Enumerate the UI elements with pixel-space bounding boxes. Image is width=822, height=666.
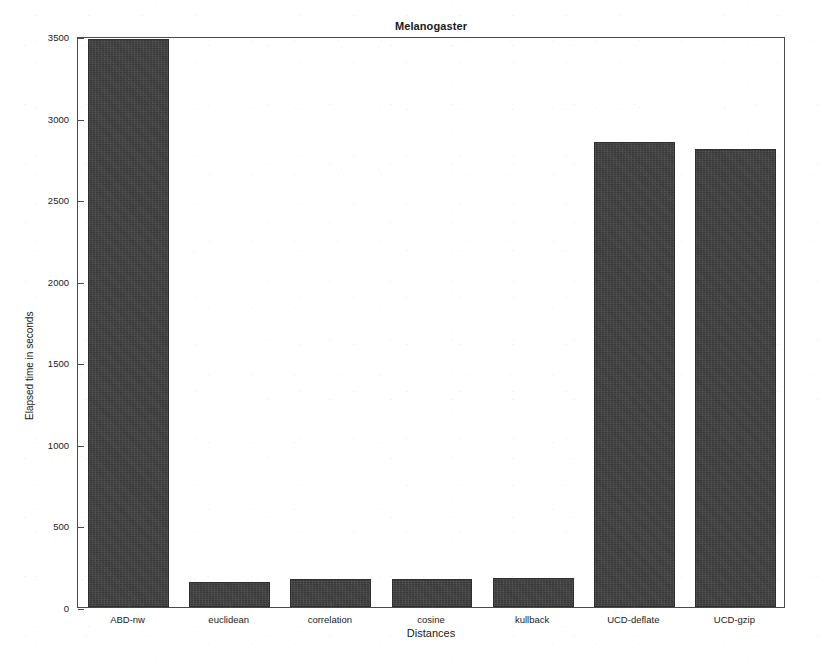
bar-ucd-deflate [594,142,675,607]
chart-figure: Melanogaster Elapsed time in seconds 050… [0,0,822,666]
y-tick [78,364,84,365]
y-tick [78,38,84,39]
y-axis-title: Elapsed time in seconds [24,220,35,420]
plot-inner [78,38,784,607]
y-tick [78,527,84,528]
y-tick-label: 1000 [25,439,69,450]
y-tick-label: 0 [25,603,69,614]
x-tick [230,601,231,607]
x-tick-label: UCD-deflate [607,614,659,625]
y-tick-label: 1500 [25,358,69,369]
y-tick-label: 3000 [25,113,69,124]
y-tick [78,283,84,284]
x-tick-label: euclidean [208,614,249,625]
bar-abd-nw [88,39,169,607]
x-tick [129,601,130,607]
y-tick-label: 500 [25,521,69,532]
bar-ucd-gzip [695,149,776,607]
x-tick-label: kullback [515,614,549,625]
x-axis-title: Distances [77,627,785,639]
x-tick [432,601,433,607]
x-tick [634,601,635,607]
x-tick [331,601,332,607]
y-tick [78,609,84,610]
x-tick-label: cosine [417,614,444,625]
y-tick [78,446,84,447]
x-tick-label: correlation [308,614,352,625]
x-tick [533,601,534,607]
y-tick [78,201,84,202]
x-tick [735,601,736,607]
y-tick-label: 2000 [25,276,69,287]
x-tick-label: ABD-nw [110,614,145,625]
x-tick-label: UCD-gzip [714,614,755,625]
chart-title: Melanogaster [77,20,785,32]
plot-area [77,37,785,608]
y-tick-label: 3500 [25,32,69,43]
y-tick-label: 2500 [25,195,69,206]
y-tick [78,120,84,121]
